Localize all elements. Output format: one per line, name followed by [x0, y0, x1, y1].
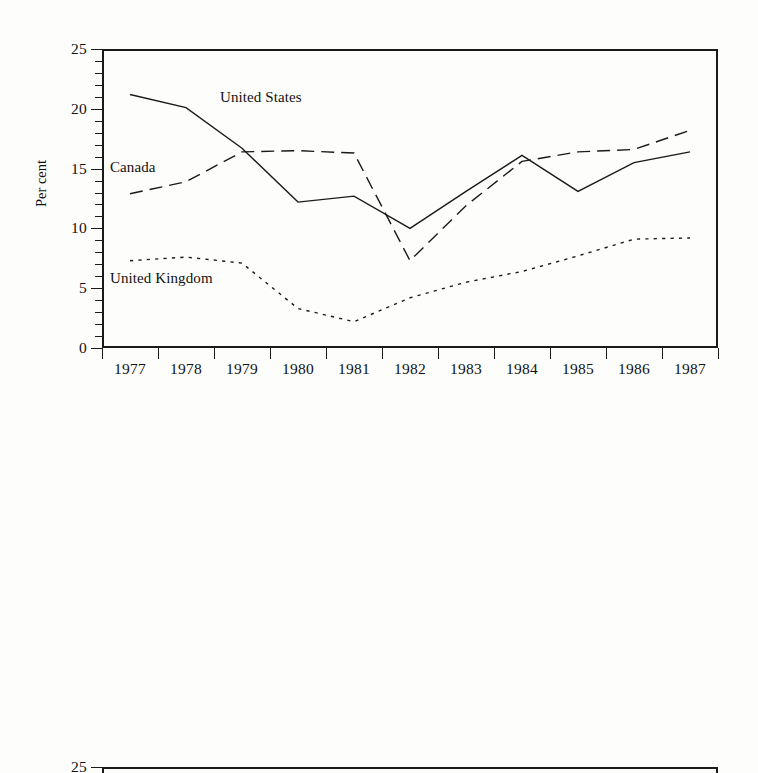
- series-line-united-kingdom: [130, 238, 690, 322]
- y-tick-minor: [95, 336, 102, 337]
- y-tick-minor: [95, 204, 102, 205]
- y-tick-major: [91, 228, 102, 229]
- y-tick-minor: [95, 121, 102, 122]
- y-tick-minor: [95, 73, 102, 74]
- x-tick: [158, 348, 159, 359]
- y-tick-major: [91, 49, 102, 50]
- series-line-united-states: [130, 94, 690, 228]
- y-tick-major: [91, 348, 102, 349]
- x-tick: [718, 348, 719, 359]
- y-tick-label: 15: [71, 160, 87, 178]
- y-axis-top: 0510152025: [42, 49, 102, 348]
- y-tick-minor: [95, 276, 102, 277]
- x-tick: [270, 348, 271, 359]
- plot-area-top: United States Canada United Kingdom: [102, 49, 718, 348]
- y-axis-bottom: 0510152025: [42, 767, 102, 773]
- y-tick-minor: [95, 133, 102, 134]
- plot-area-bottom: Germany France: [102, 767, 718, 773]
- series-line-canada: [130, 130, 690, 260]
- y-tick-label: 20: [71, 100, 87, 118]
- y-tick-label: 5: [79, 279, 87, 297]
- y-tick-minor: [95, 240, 102, 241]
- y-tick-minor: [95, 97, 102, 98]
- y-axis-title-top: Per cent: [33, 160, 50, 207]
- y-tick-minor: [95, 300, 102, 301]
- chart-north-america-uk: 0510152025 Per cent United States Canada…: [0, 0, 758, 390]
- y-tick-minor: [95, 181, 102, 182]
- x-tick: [550, 348, 551, 359]
- series-label-united-states: United States: [220, 89, 302, 106]
- series-canvas-top: [102, 49, 718, 348]
- x-tick: [494, 348, 495, 359]
- chart-germany-france: 0510152025 Per cent Germany France 19771…: [0, 359, 758, 773]
- series-canvas-bottom: [102, 767, 718, 773]
- y-tick-label: 25: [71, 40, 87, 58]
- x-tick: [214, 348, 215, 359]
- y-tick-major: [91, 767, 102, 768]
- x-tick: [662, 348, 663, 359]
- y-tick-major: [91, 169, 102, 170]
- y-tick-label: 25: [71, 758, 87, 773]
- y-tick-minor: [95, 252, 102, 253]
- y-tick-label: 10: [71, 219, 87, 237]
- x-tick: [438, 348, 439, 359]
- y-tick-minor: [95, 157, 102, 158]
- y-tick-minor: [95, 85, 102, 86]
- y-tick-major: [91, 109, 102, 110]
- x-tick: [606, 348, 607, 359]
- x-tick: [382, 348, 383, 359]
- y-tick-minor: [95, 61, 102, 62]
- figure-page: 0510152025 Per cent United States Canada…: [0, 0, 758, 773]
- series-label-united-kingdom: United Kingdom: [110, 270, 213, 287]
- x-tick: [326, 348, 327, 359]
- y-tick-minor: [95, 145, 102, 146]
- y-tick-major: [91, 288, 102, 289]
- series-label-canada: Canada: [110, 159, 156, 176]
- x-tick: [102, 348, 103, 359]
- y-tick-minor: [95, 324, 102, 325]
- y-tick-minor: [95, 193, 102, 194]
- y-tick-minor: [95, 312, 102, 313]
- y-tick-minor: [95, 264, 102, 265]
- y-tick-minor: [95, 216, 102, 217]
- y-tick-label: 0: [79, 339, 87, 357]
